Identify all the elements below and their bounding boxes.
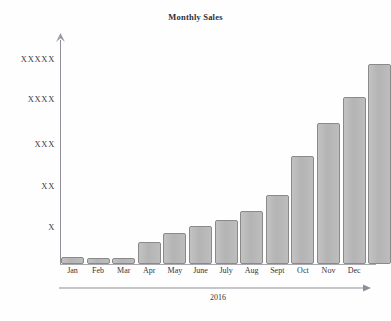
bar-chart: Monthly Sales XXXXXXXXXXXXXXX JanFebMarA… — [0, 0, 391, 321]
year-axis-arrow-icon — [57, 283, 375, 293]
month-label-dec: Dec — [339, 266, 370, 275]
year-label: 2016 — [60, 293, 376, 302]
x-axis-month-labels: JanFebMarAprMayJuneJulyAugSeptOctNovDec — [0, 0, 391, 321]
